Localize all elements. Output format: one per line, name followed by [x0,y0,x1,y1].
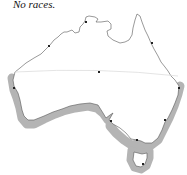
marker-adelaide [110,120,112,122]
australia-map [0,0,187,175]
marker-broome [48,45,50,47]
marker-melbourne [136,139,138,141]
marker-sydney [164,119,166,121]
marker-perth [13,87,15,89]
marker-centre [98,71,100,73]
marker-cairns [151,42,153,44]
marker-hobart [142,163,144,165]
marker-brisbane [178,87,180,89]
marker-darwin [85,21,87,23]
